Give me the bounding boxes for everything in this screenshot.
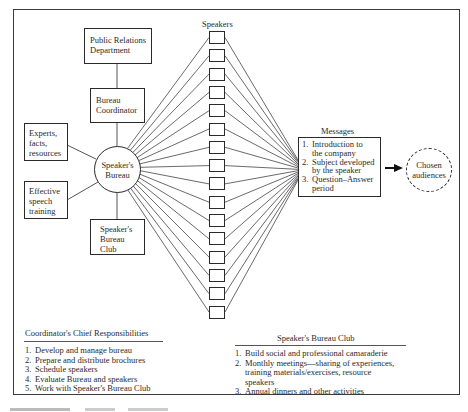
speech-training-label-line-2: speech: [29, 196, 63, 206]
responsibility-item-text: Evaluate Bureau and speakers: [35, 374, 137, 384]
club-activity-item: 3. Annual dinners and other activities: [235, 387, 435, 397]
bureau-club-activities-list: 1. Build social and professional camarad…: [235, 349, 435, 397]
responsibility-item-text: Schedule speakers: [35, 364, 98, 374]
speaker-box: [209, 232, 225, 245]
coordinator-responsibilities-list: 1. Develop and manage bureau 2. Prepare …: [25, 346, 195, 394]
speaker-box: [209, 31, 225, 44]
messages-label: Messages: [321, 126, 354, 136]
effective-speech-training-box: Effective speech training: [24, 181, 68, 219]
club-activity-item-number: 2.: [235, 359, 241, 369]
speaker-box: [209, 123, 225, 136]
club-activity-item-text-line: Annual dinners and other activities: [245, 387, 435, 397]
responsibility-item-text: Work with Speaker's Bureau Club: [35, 383, 151, 393]
message-item-number: 2.: [302, 158, 308, 167]
experts-label-line-1: Experts,: [29, 128, 63, 138]
speaker-box: [209, 49, 225, 62]
speaker-box: [209, 214, 225, 227]
speaker-box: [209, 86, 225, 99]
responsibility-item-text: Prepare and distribute brochures: [35, 355, 145, 365]
bureau-club-label-line-1: Speaker's: [100, 224, 135, 234]
speaker-box: [209, 306, 225, 319]
chosen-audiences-label-line-1: Chosen: [412, 160, 446, 170]
bureau-club-label-line-3: Club: [100, 244, 135, 254]
speakers-bureau-label-line-2: Bureau: [101, 170, 133, 180]
figure-caption-clipped: [10, 404, 168, 412]
bureau-club-section-divider: [235, 345, 406, 346]
bureau-coordinator-label-line-2: Coordinator: [96, 105, 139, 115]
experts-facts-resources-box: Experts, facts, resources: [24, 123, 68, 161]
message-item: 2. Subject developed by the speaker: [302, 158, 377, 176]
message-item: 3. Question–Answer period: [302, 175, 377, 193]
speakers-bureau-club-box: Speaker's Bureau Club: [90, 219, 145, 255]
bureau-club-label-line-2: Bureau: [100, 234, 135, 244]
public-relations-label-line-2: Department: [90, 45, 146, 55]
speakers-bureau-circle: Speaker's Bureau: [94, 146, 141, 193]
speaker-box: [209, 104, 225, 117]
speaker-box: [209, 177, 225, 190]
speaker-box: [209, 196, 225, 209]
messages-box: 1. Introduction to the company 2. Subjec…: [298, 137, 381, 197]
public-relations-department-box: Public Relations Department: [84, 28, 152, 64]
speaker-box: [209, 159, 225, 172]
speaker-box: [209, 269, 225, 282]
speaker-box: [209, 141, 225, 154]
message-item-text-line: period: [312, 184, 377, 193]
speech-training-label-line-3: training: [29, 206, 63, 216]
experts-label-line-2: facts,: [29, 138, 63, 148]
coordinator-responsibilities-title: Coordinator's Chief Responsibilities: [25, 328, 148, 338]
speech-training-label-line-1: Effective: [29, 186, 63, 196]
public-relations-label-line-1: Public Relations: [90, 35, 146, 45]
message-item-number: 1.: [302, 140, 308, 149]
bureau-coordinator-label-line-1: Bureau: [96, 95, 139, 105]
speakers-column-label: Speakers: [202, 19, 233, 29]
messages-list: 1. Introduction to the company 2. Subjec…: [302, 140, 377, 193]
experts-label-line-3: resources: [29, 148, 63, 158]
speaker-box: [209, 251, 225, 264]
speaker-box: [209, 68, 225, 81]
bureau-coordinator-box: Bureau Coordinator: [90, 88, 145, 123]
bureau-club-section-title: Speaker's Bureau Club: [277, 333, 355, 343]
chosen-audiences-circle: Chosen audiences: [406, 148, 452, 192]
responsibility-item: 5. Work with Speaker's Bureau Club: [25, 384, 195, 394]
message-item: 1. Introduction to the company: [302, 140, 377, 158]
speakers-bureau-label-line-1: Speaker's: [101, 160, 133, 170]
message-item-number: 3.: [302, 175, 308, 184]
speaker-box: [209, 287, 225, 300]
responsibility-item-number: 5.: [25, 384, 31, 394]
chosen-audiences-label-line-2: audiences: [412, 170, 446, 180]
coordinator-responsibilities-divider: [24, 341, 163, 342]
right-arrow-icon: [385, 164, 403, 172]
club-activity-item-number: 3.: [235, 387, 241, 397]
club-activity-item: 2. Monthly meetings—sharing of experienc…: [235, 359, 435, 388]
responsibility-item-text: Develop and manage bureau: [35, 345, 132, 355]
